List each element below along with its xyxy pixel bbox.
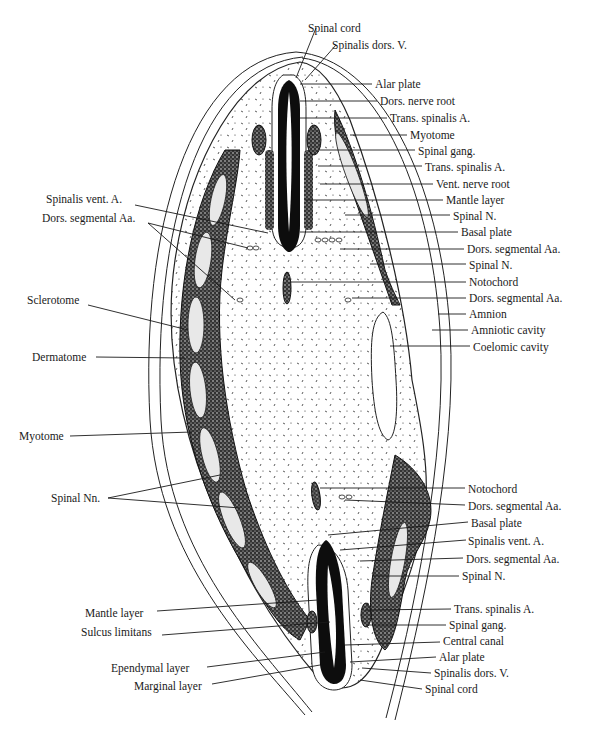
label-mantle-layer: Mantle layer <box>85 607 143 620</box>
label-spinal-cord: Spinal cord <box>308 22 361 35</box>
label-coelomic-cavity: Coelomic cavity <box>473 341 549 354</box>
label-notochord: Notochord <box>468 483 517 496</box>
label-trans-spinalis-a: Trans. spinalis A. <box>390 112 470 125</box>
label-dors-nerve-root: Dors. nerve root <box>380 95 455 108</box>
label-dors-segmental-aa: Dors. segmental Aa. <box>466 553 559 566</box>
label-spinal-gang: Spinal gang. <box>418 145 476 158</box>
label-spinalis-dors-v: Spinalis dors. V. <box>434 667 509 680</box>
label-amniotic-cavity: Amniotic cavity <box>471 324 545 337</box>
notochord-top-shape <box>283 272 291 304</box>
label-spinal-nn: Spinal Nn. <box>51 492 100 505</box>
embryo-section-figure: Spinal cord Spinalis dors. V. Alar plate… <box>0 0 597 733</box>
label-spinalis-vent-a: Spinalis vent. A. <box>46 193 122 206</box>
label-spinalis-vent-a: Spinalis vent. A. <box>468 535 544 548</box>
label-basal-plate: Basal plate <box>461 226 512 239</box>
label-trans-spinalis-a: Trans. spinalis A. <box>425 161 505 174</box>
label-spinalis-dors-v: Spinalis dors. V. <box>332 39 407 52</box>
label-dors-segmental-aa: Dors. segmental Aa. <box>42 212 135 225</box>
label-myotome: Myotome <box>410 129 455 142</box>
label-ependymal-layer: Ependymal layer <box>111 662 189 675</box>
label-sclerotome: Sclerotome <box>27 294 79 307</box>
label-spinal-n: Spinal N. <box>469 259 512 272</box>
label-myotome: Myotome <box>19 430 64 443</box>
label-basal-plate: Basal plate <box>471 517 522 530</box>
label-amnion: Amnion <box>469 308 507 321</box>
label-spinal-n: Spinal N. <box>462 570 505 583</box>
label-spinal-gang: Spinal gang. <box>449 619 507 632</box>
label-dors-segmental-aa: Dors. segmental Aa. <box>469 292 562 305</box>
label-marginal-layer: Marginal layer <box>134 680 202 693</box>
embryo-drawing <box>0 0 597 733</box>
label-sulcus-limitans: Sulcus limitans <box>81 626 152 639</box>
label-central-canal: Central canal <box>443 635 504 648</box>
label-trans-spinalis-a: Trans. spinalis A. <box>454 603 534 616</box>
label-dors-segmental-aa: Dors. segmental Aa. <box>468 500 561 513</box>
label-spinal-cord: Spinal cord <box>425 683 478 696</box>
label-vent-nerve-root: Vent. nerve root <box>436 178 510 191</box>
label-mantle-layer: Mantle layer <box>446 194 504 207</box>
label-alar-plate: Alar plate <box>439 651 485 664</box>
label-dors-segmental-aa: Dors. segmental Aa. <box>467 243 560 256</box>
label-alar-plate: Alar plate <box>375 78 421 91</box>
label-spinal-n: Spinal N. <box>453 210 496 223</box>
label-dermatome: Dermatome <box>32 351 86 364</box>
label-notochord: Notochord <box>469 276 518 289</box>
